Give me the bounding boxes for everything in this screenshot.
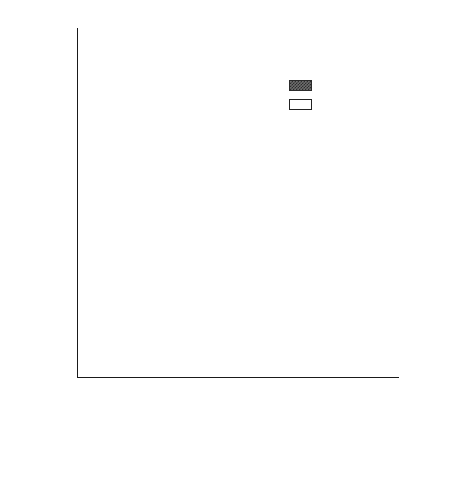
legend-swatch-employment-icon <box>289 99 312 110</box>
plot-area <box>78 28 399 377</box>
x-axis-line <box>77 377 399 378</box>
bar-chart <box>0 0 464 485</box>
chart-legend <box>289 77 321 115</box>
legend-item-employment <box>289 96 321 112</box>
legend-item-assets <box>289 77 321 93</box>
legend-swatch-assets-icon <box>289 80 312 91</box>
